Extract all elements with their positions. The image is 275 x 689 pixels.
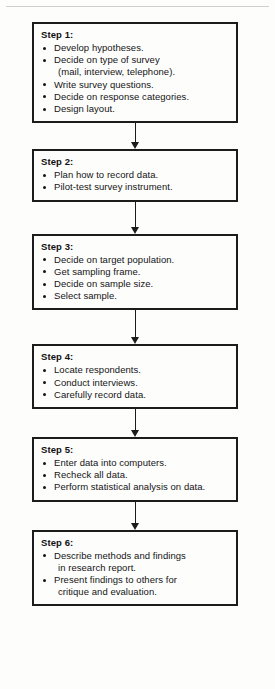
bullet-item: Get sampling frame. (41, 266, 230, 278)
arrow-head (131, 337, 139, 344)
bullet-item: Recheck all data. (41, 469, 230, 481)
arrow-head (131, 430, 139, 437)
bullet-text: Recheck all data. (54, 469, 128, 480)
bullet-item: Write survey questions. (41, 79, 230, 91)
step-bullet-list: Decide on target population.Get sampling… (41, 254, 230, 303)
step-title: Step 2: (41, 156, 230, 168)
bullet-dot-icon (43, 295, 46, 298)
bullet-dot-icon (43, 393, 46, 396)
bullet-text: Decide on target population. (54, 254, 174, 265)
bullet-text: Get sampling frame. (54, 266, 140, 277)
bullet-dot-icon (43, 83, 46, 86)
bullet-dot-icon (43, 462, 46, 465)
bullet-dot-icon (43, 283, 46, 286)
bullet-text: Develop hypotheses. (54, 42, 144, 53)
bullet-text: Enter data into computers. (54, 457, 167, 468)
step-connector (32, 409, 238, 437)
down-arrow-icon (131, 202, 140, 234)
bullet-text: Design layout. (54, 103, 115, 114)
bullet-item: Decide on sample size. (41, 278, 230, 290)
bullet-item: Decide on target population. (41, 254, 230, 266)
bullet-item: Design layout. (41, 103, 230, 115)
arrow-stem (135, 310, 136, 338)
step-title: Step 6: (41, 537, 230, 549)
bullet-dot-icon (43, 270, 46, 273)
step-title: Step 1: (41, 29, 230, 41)
step-bullet-list: Develop hypotheses.Decide on type of sur… (41, 42, 230, 115)
bullet-text: Perform statistical analysis on data. (54, 481, 205, 492)
down-arrow-icon (131, 123, 140, 149)
down-arrow-icon (131, 409, 140, 437)
flowchart-page: Step 1:Develop hypotheses.Decide on type… (0, 0, 275, 689)
flowchart-container: Step 1:Develop hypotheses.Decide on type… (32, 22, 238, 606)
arrow-head (131, 523, 139, 530)
bullet-dot-icon (43, 174, 46, 177)
bullet-text: Conduct interviews. (54, 377, 138, 388)
step-title: Step 5: (41, 444, 230, 456)
bullet-item: Locate respondents. (41, 364, 230, 376)
bullet-text-continuation: (mail, interview, telephone). (54, 66, 230, 78)
bullet-dot-icon (43, 554, 46, 557)
arrow-stem (135, 123, 136, 143)
bullet-dot-icon (43, 579, 46, 582)
down-arrow-icon (131, 502, 140, 530)
step-connector (32, 502, 238, 530)
bullet-dot-icon (43, 258, 46, 261)
step-bullet-list: Enter data into computers.Recheck all da… (41, 457, 230, 494)
step-connector (32, 123, 238, 149)
bullet-dot-icon (43, 108, 46, 111)
bullet-text: Decide on type of survey (54, 54, 160, 65)
page-top-rule (6, 6, 269, 7)
step-bullet-list: Locate respondents.Conduct interviews.Ca… (41, 364, 230, 401)
bullet-text-continuation: critique and evaluation. (54, 586, 230, 598)
step-title: Step 4: (41, 351, 230, 363)
arrow-stem (135, 409, 136, 431)
bullet-item: Plan how to record data. (41, 169, 230, 181)
bullet-text: Decide on response categories. (54, 91, 189, 102)
bullet-dot-icon (43, 369, 46, 372)
bullet-text: Decide on sample size. (54, 278, 153, 289)
bullet-text: Describe methods and findings (54, 550, 186, 561)
bullet-dot-icon (43, 95, 46, 98)
step-title: Step 3: (41, 241, 230, 253)
bullet-text: Plan how to record data. (54, 169, 158, 180)
step-connector (32, 202, 238, 234)
arrow-stem (135, 202, 136, 228)
arrow-stem (135, 502, 136, 524)
step-connector (32, 310, 238, 344)
bullet-item: Enter data into computers. (41, 457, 230, 469)
bullet-text: Carefully record data. (54, 389, 146, 400)
bullet-item: Present findings to others forcritique a… (41, 574, 230, 598)
bullet-item: Describe methods and findingsin research… (41, 550, 230, 574)
bullet-item: Decide on type of survey(mail, interview… (41, 54, 230, 78)
bullet-item: Decide on response categories. (41, 91, 230, 103)
bullet-dot-icon (43, 486, 46, 489)
bullet-dot-icon (43, 381, 46, 384)
bullet-text: Write survey questions. (54, 79, 154, 90)
bullet-text: Present findings to others for (54, 574, 177, 585)
step-box-2: Step 2:Plan how to record data.Pilot-tes… (32, 149, 238, 201)
bullet-text: Pilot-test survey instrument. (54, 181, 173, 192)
bullet-dot-icon (43, 186, 46, 189)
bullet-item: Carefully record data. (41, 389, 230, 401)
bullet-item: Select sample. (41, 290, 230, 302)
bullet-text: Select sample. (54, 290, 117, 301)
bullet-dot-icon (43, 47, 46, 50)
step-box-4: Step 4:Locate respondents.Conduct interv… (32, 344, 238, 409)
step-box-5: Step 5:Enter data into computers.Recheck… (32, 437, 238, 502)
bullet-item: Conduct interviews. (41, 377, 230, 389)
bullet-item: Develop hypotheses. (41, 42, 230, 54)
step-box-3: Step 3:Decide on target population.Get s… (32, 234, 238, 311)
bullet-text-continuation: in research report. (54, 562, 230, 574)
down-arrow-icon (131, 310, 140, 344)
bullet-item: Pilot-test survey instrument. (41, 181, 230, 193)
step-bullet-list: Plan how to record data.Pilot-test surve… (41, 169, 230, 193)
arrow-head (131, 227, 139, 234)
bullet-item: Perform statistical analysis on data. (41, 481, 230, 493)
bullet-text: Locate respondents. (54, 364, 141, 375)
step-box-1: Step 1:Develop hypotheses.Decide on type… (32, 22, 238, 123)
bullet-dot-icon (43, 59, 46, 62)
step-box-6: Step 6:Describe methods and findingsin r… (32, 530, 238, 607)
arrow-head (131, 142, 139, 149)
step-bullet-list: Describe methods and findingsin research… (41, 550, 230, 599)
